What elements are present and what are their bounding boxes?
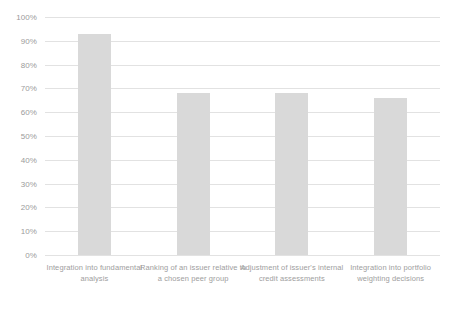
x-axis-category-label: Adjustment of issuer's internal credit a…: [237, 262, 348, 284]
x-axis-category-label: Integration into fundamental analysis: [39, 262, 150, 284]
gridline: [45, 255, 440, 256]
x-axis: Integration into fundamental analysisRan…: [45, 262, 445, 312]
y-axis-tick-label: 10%: [21, 227, 37, 236]
y-axis-tick-label: 60%: [21, 108, 37, 117]
y-axis-tick-label: 90%: [21, 36, 37, 45]
bar-chart: 100%90%80%70%60%50%40%30%20%10%0% Integr…: [0, 0, 457, 313]
y-axis-tick-label: 0%: [25, 251, 37, 260]
y-axis-tick-label: 50%: [21, 132, 37, 141]
y-axis-tick-label: 80%: [21, 60, 37, 69]
x-axis-category-label: Ranking of an issuer relative to a chose…: [138, 262, 249, 284]
x-axis-category-label: Integration into portfolio weighting dec…: [335, 262, 446, 284]
y-axis-tick-label: 20%: [21, 203, 37, 212]
bar: [177, 93, 210, 255]
y-axis-tick-label: 40%: [21, 155, 37, 164]
bar: [374, 98, 407, 255]
bar: [275, 93, 308, 255]
y-axis-tick-label: 70%: [21, 84, 37, 93]
bars-layer: [45, 17, 440, 255]
y-axis-tick-label: 100%: [16, 13, 37, 22]
bar: [78, 34, 111, 255]
y-axis-tick-label: 30%: [21, 179, 37, 188]
